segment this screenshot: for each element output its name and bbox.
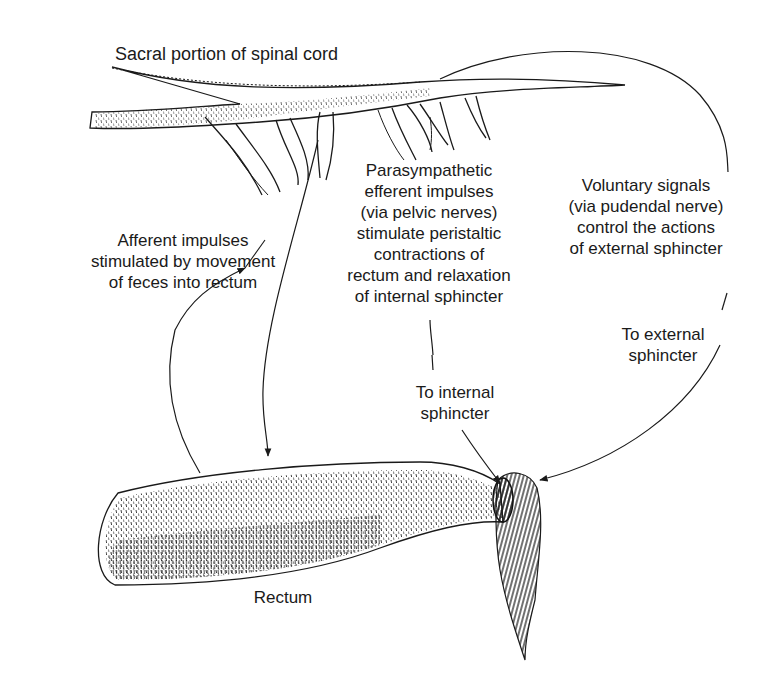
parasympathetic-arrow (263, 140, 318, 456)
label-voluntary-signals: Voluntary signals (via pudendal nerve) c… (532, 175, 760, 259)
label-to-internal-sphincter: To internal sphincter (400, 382, 510, 424)
voluntary-signal-arc (440, 51, 728, 172)
label-to-external-sphincter: To external sphincter (608, 324, 718, 366)
label-rectum: Rectum (248, 587, 318, 608)
defecation-reflex-diagram: Sacral portion of spinal cord Afferent i… (0, 0, 770, 694)
internal-sphincter-arrow (432, 355, 433, 370)
label-parasympathetic: Parasympathetic efferent impulses (via p… (320, 160, 538, 307)
spinal-cord (90, 67, 625, 129)
rectum (98, 462, 503, 585)
external-sphincter (496, 473, 541, 660)
label-afferent-impulses: Afferent impulses stimulated by movement… (68, 230, 298, 293)
label-spinal-cord: Sacral portion of spinal cord (115, 44, 338, 65)
afferent-arrow (170, 268, 245, 473)
